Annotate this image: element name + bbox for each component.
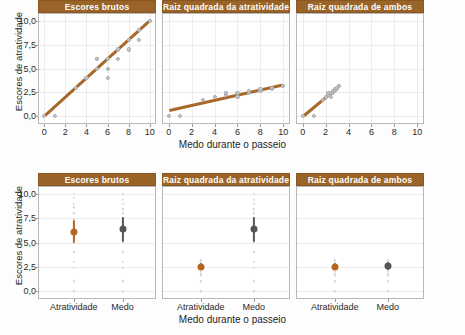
x-tick-label: 6 bbox=[369, 127, 374, 137]
x-tick-label: 8 bbox=[258, 127, 263, 137]
jittered-point bbox=[334, 280, 336, 282]
data-point bbox=[178, 114, 182, 118]
mean-point bbox=[384, 263, 391, 270]
gridline-x bbox=[283, 14, 284, 123]
y-tick-labels-bottom: 0,02,55,07,510,0 bbox=[0, 173, 36, 299]
panel-raiz-quadrada-de-ambos-2: Raiz quadrada de ambos bbox=[296, 173, 424, 299]
jittered-point bbox=[200, 275, 202, 277]
jittered-point bbox=[253, 208, 255, 210]
jittered-point bbox=[387, 275, 389, 277]
jittered-point bbox=[73, 280, 75, 282]
x-tick-label: 10 bbox=[145, 127, 155, 137]
jittered-point bbox=[73, 251, 75, 253]
y-tick-label: 5,0 bbox=[2, 64, 36, 74]
data-point bbox=[105, 57, 109, 61]
y-tick-label: 0,0 bbox=[2, 286, 36, 296]
data-point bbox=[301, 114, 305, 118]
jittered-point bbox=[253, 251, 255, 253]
data-point bbox=[137, 28, 141, 32]
x-tick-label: 2 bbox=[189, 127, 194, 137]
y-tick-label: 2,5 bbox=[2, 262, 36, 272]
panel-strip-label: Escores brutos bbox=[38, 0, 156, 13]
jittered-point bbox=[121, 198, 123, 200]
data-point bbox=[167, 114, 171, 118]
x-tick-labels: 0246810 bbox=[38, 124, 156, 138]
x-tick-label: 4 bbox=[346, 127, 351, 137]
y-tick-label: 5,0 bbox=[2, 238, 36, 248]
mean-point bbox=[250, 226, 257, 233]
data-point bbox=[84, 76, 88, 80]
category-label: Atratividade bbox=[50, 302, 98, 312]
panel-raiz-quadrada-da-atratividade-1: Raiz quadrada da atratividade bbox=[162, 0, 290, 124]
x-tick-label: 6 bbox=[105, 127, 110, 137]
gridline-y bbox=[39, 243, 155, 244]
data-point bbox=[42, 114, 46, 118]
jittered-point bbox=[121, 251, 123, 253]
gridline-y bbox=[39, 92, 155, 93]
panel-strip-label: Raiz quadrada da atratividade bbox=[162, 173, 290, 186]
gridline-y bbox=[39, 45, 155, 46]
jittered-point bbox=[73, 197, 75, 199]
x-tick-label: 10 bbox=[278, 127, 288, 137]
panel-escores-brutos-0: Escores brutos bbox=[38, 0, 156, 124]
jittered-point bbox=[121, 202, 123, 204]
gridline-x bbox=[44, 14, 45, 123]
bottom-row: Escores de atratividade 0,02,55,07,510,0… bbox=[0, 165, 465, 335]
gridline-y bbox=[163, 243, 289, 244]
gridline-x bbox=[129, 14, 130, 123]
jittered-point bbox=[73, 206, 75, 208]
data-point bbox=[127, 47, 131, 51]
data-point bbox=[281, 84, 285, 88]
x-tick-label: 2 bbox=[323, 127, 328, 137]
jittered-point bbox=[73, 261, 75, 263]
jittered-point bbox=[387, 280, 389, 282]
x-axis-title-bottom: Medo durante o passeio bbox=[0, 314, 465, 325]
figure-panel-grid: Escores de atratividade 0,02,55,07,510,0… bbox=[0, 0, 465, 335]
x-tick-label: 4 bbox=[212, 127, 217, 137]
gridline-x bbox=[169, 14, 170, 123]
gridline-y bbox=[163, 194, 289, 195]
jittered-point bbox=[334, 275, 336, 277]
category-label: Atratividade bbox=[311, 302, 359, 312]
mean-point bbox=[331, 263, 338, 270]
data-point bbox=[148, 19, 152, 23]
y-tick-label: 10,0 bbox=[2, 16, 36, 26]
gridline-y bbox=[39, 21, 155, 22]
data-point bbox=[312, 114, 316, 118]
gridline-x bbox=[65, 14, 66, 123]
jittered-point bbox=[121, 280, 123, 282]
gridline-y bbox=[297, 92, 423, 93]
category-label: Medo bbox=[111, 302, 134, 312]
jittered-point bbox=[200, 280, 202, 282]
y-tick-label: 7,5 bbox=[2, 40, 36, 50]
gridline-x bbox=[215, 14, 216, 123]
jittered-point bbox=[253, 202, 255, 204]
gridline-y bbox=[39, 218, 155, 219]
regression-line bbox=[168, 83, 283, 111]
x-tick-label: 4 bbox=[84, 127, 89, 137]
data-point bbox=[116, 47, 120, 51]
data-point bbox=[116, 57, 120, 61]
data-point bbox=[105, 76, 109, 80]
x-category-labels: AtratividadeMedo bbox=[296, 299, 424, 313]
gridline-y bbox=[39, 194, 155, 195]
jittered-point bbox=[253, 280, 255, 282]
gridline-y bbox=[297, 21, 423, 22]
data-point bbox=[329, 95, 333, 99]
plot-area bbox=[162, 186, 290, 299]
category-label: Medo bbox=[376, 302, 399, 312]
gridline-y bbox=[297, 45, 423, 46]
mean-point bbox=[70, 228, 77, 235]
data-point bbox=[105, 66, 109, 70]
panel-strip-label: Escores brutos bbox=[38, 173, 156, 186]
panel-strip-label: Raiz quadrada da atratividade bbox=[162, 0, 290, 13]
gridline-x bbox=[303, 14, 304, 123]
gridline-y bbox=[297, 69, 423, 70]
mean-point bbox=[119, 226, 126, 233]
gridline-y bbox=[163, 267, 289, 268]
category-label: Medo bbox=[242, 302, 265, 312]
gridline-x bbox=[86, 14, 87, 123]
x-tick-label: 6 bbox=[235, 127, 240, 137]
jittered-point bbox=[253, 198, 255, 200]
gridline-x bbox=[150, 14, 151, 123]
